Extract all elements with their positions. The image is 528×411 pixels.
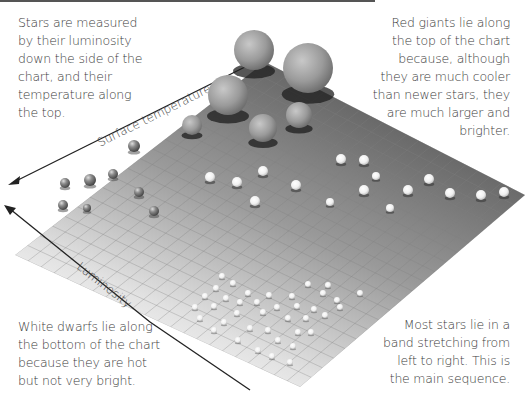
white-dwarf-star: [247, 325, 253, 331]
white-dwarf-star: [295, 329, 301, 335]
red-giant-star: [286, 102, 312, 128]
main-sequence-star: [359, 185, 369, 195]
white-dwarf-star: [202, 293, 208, 299]
white-dwarf-star: [234, 310, 240, 316]
red-giant-star: [249, 114, 277, 142]
note-line: the top.: [18, 104, 142, 122]
note-line: they are much cooler: [373, 68, 510, 86]
white-dwarf-star: [255, 347, 261, 353]
note-line: but not very bright.: [18, 372, 160, 390]
white-dwarf-star: [357, 290, 363, 296]
note-line: because, although: [373, 50, 510, 68]
note-line: the main sequence.: [383, 370, 510, 388]
red-giant-star: [208, 75, 248, 115]
white-dwarf-star: [219, 273, 225, 279]
cool-star: [60, 178, 70, 188]
main-sequence-star: [499, 187, 509, 197]
main-sequence-star: [424, 174, 434, 184]
note-main-sequence: Most stars lie in aband stretching froml…: [383, 316, 510, 388]
red-giant-star: [234, 30, 274, 70]
white-dwarf-star: [290, 343, 296, 349]
main-sequence-star: [445, 188, 455, 198]
white-dwarf-star: [260, 309, 266, 315]
white-dwarf-star: [254, 299, 260, 305]
white-dwarf-star: [337, 304, 343, 310]
cool-star: [108, 169, 118, 179]
cool-star: [128, 140, 140, 152]
main-sequence-star: [205, 172, 215, 182]
main-sequence-star: [232, 177, 242, 187]
cool-star: [83, 204, 91, 212]
note-line: left to right. This is: [383, 352, 510, 370]
note-line: are much larger and: [373, 104, 510, 122]
note-line: the top of the chart: [373, 32, 510, 50]
note-line: temperature along: [18, 86, 142, 104]
main-sequence-star: [258, 166, 268, 176]
white-dwarf-star: [305, 281, 311, 287]
white-dwarf-star: [245, 290, 251, 296]
white-dwarf-star: [294, 303, 300, 309]
note-line: the bottom of the chart: [18, 336, 160, 354]
note-line: White dwarfs lie along: [18, 318, 160, 336]
white-dwarf-star: [265, 327, 271, 333]
note-red-giants: Red giants lie alongthe top of the chart…: [373, 14, 510, 140]
main-sequence-star: [359, 155, 369, 165]
cool-star: [58, 200, 68, 210]
white-dwarf-star: [197, 315, 203, 321]
note-line: than newer stars, they: [373, 86, 510, 104]
white-dwarf-star: [223, 295, 229, 301]
main-sequence-star: [386, 204, 394, 212]
white-dwarf-star: [266, 292, 272, 298]
white-dwarf-star: [303, 315, 309, 321]
note-line: brighter.: [373, 122, 510, 140]
arrowhead-icon: [4, 205, 16, 215]
white-dwarf-star: [322, 312, 328, 318]
white-dwarf-star: [192, 304, 198, 310]
main-sequence-star: [372, 172, 380, 180]
note-line: because they are hot: [18, 354, 160, 372]
white-dwarf-star: [289, 293, 295, 299]
white-dwarf-star: [275, 337, 281, 343]
white-dwarf-star: [230, 280, 236, 286]
white-dwarf-star: [274, 304, 280, 310]
note-line: Stars are measured: [18, 14, 142, 32]
arrowhead-icon: [8, 176, 20, 185]
main-sequence-star: [326, 198, 334, 206]
red-giant-star: [283, 43, 333, 93]
main-sequence-star: [336, 154, 346, 164]
white-dwarf-star: [311, 306, 317, 312]
main-sequence-star: [291, 180, 301, 190]
note-white-dwarfs: White dwarfs lie alongthe bottom of the …: [18, 318, 160, 390]
white-dwarf-star: [213, 285, 219, 291]
white-dwarf-star: [334, 297, 340, 303]
note-line: Most stars lie in a: [383, 316, 510, 334]
red-giant-star: [182, 115, 202, 135]
white-dwarf-star: [285, 315, 291, 321]
white-dwarf-star: [287, 359, 293, 365]
white-dwarf-star: [235, 337, 241, 343]
cool-star: [84, 174, 96, 186]
cool-star: [134, 187, 144, 197]
note-line: chart, and their: [18, 68, 142, 86]
note-line: by their luminosity: [18, 32, 142, 50]
white-dwarf-star: [221, 319, 227, 325]
main-sequence-star: [403, 185, 413, 195]
white-dwarf-star: [211, 303, 217, 309]
note-line: Red giants lie along: [373, 14, 510, 32]
white-dwarf-star: [325, 282, 331, 288]
cool-star: [149, 206, 159, 216]
white-dwarf-star: [237, 299, 243, 305]
white-dwarf-star: [269, 353, 275, 359]
note-line: band stretching from: [383, 334, 510, 352]
note-measurement: Stars are measuredby their luminositydow…: [18, 14, 142, 122]
white-dwarf-star: [320, 290, 326, 296]
main-sequence-star: [476, 190, 486, 200]
white-dwarf-star: [308, 329, 314, 335]
note-line: down the side of the: [18, 50, 142, 68]
main-sequence-star: [250, 196, 260, 206]
white-dwarf-star: [211, 327, 217, 333]
